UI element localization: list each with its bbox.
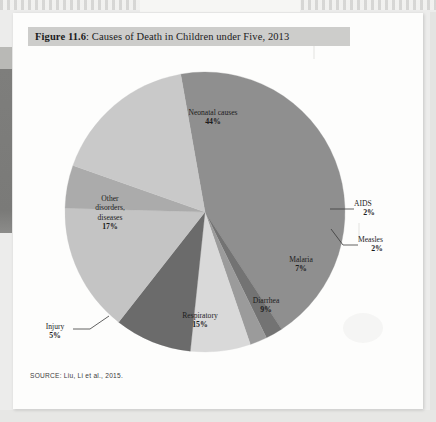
figure-title-caption: Causes of Death in Children under Five, …	[92, 31, 289, 42]
page-right-edge	[430, 12, 436, 422]
pie-label-other-line3: diseases	[76, 213, 144, 222]
pie-label-respiratory-value: 15%	[165, 320, 235, 329]
pie-label-injury: Injury 5%	[35, 322, 75, 341]
leader-line-injury	[73, 316, 109, 329]
pie-label-malaria-value: 7%	[271, 264, 331, 273]
pie-label-other-disorders: Other disorders, diseases 17%	[76, 194, 144, 232]
pie-label-diarrhea: Diarrhea 9%	[235, 296, 297, 315]
figure-page-card: Figure 11.6: Causes of Death in Children…	[13, 13, 423, 409]
pie-label-neonatal-value: 44%	[153, 117, 273, 126]
pie-label-aids: AIDS 2%	[354, 199, 408, 218]
pie-label-aids-value: 2%	[354, 208, 384, 217]
pie-label-other-value: 17%	[76, 222, 144, 231]
figure-title-bar: Figure 11.6: Causes of Death in Children…	[28, 27, 350, 46]
pie-label-measles: Measles 2%	[358, 235, 414, 254]
pie-label-diarrhea-value: 9%	[235, 305, 297, 314]
figure-page-inner: Figure 11.6: Causes of Death in Children…	[13, 13, 423, 409]
book-spine-bar	[0, 47, 12, 233]
pie-label-malaria-name: Malaria	[271, 255, 331, 264]
pie-label-neonatal-name: Neonatal causes	[153, 108, 273, 117]
book-spine-highlight	[0, 47, 12, 69]
pie-label-injury-name: Injury	[35, 322, 75, 331]
page-bottom-edge	[0, 410, 436, 422]
pie-label-aids-name: AIDS	[354, 199, 408, 208]
pie-label-diarrhea-name: Diarrhea	[235, 296, 297, 305]
pie-label-respiratory-name: Respiratory	[165, 311, 235, 320]
pie-label-injury-value: 5%	[35, 331, 75, 340]
pie-label-neonatal: Neonatal causes 44%	[153, 108, 273, 127]
pie-chart-area: Neonatal causes 44% AIDS 2% Measles 2% M…	[13, 51, 423, 361]
figure-source: SOURCE: Liu, Li et al., 2015.	[30, 372, 123, 379]
pie-label-malaria: Malaria 7%	[271, 255, 331, 274]
pie-label-respiratory: Respiratory 15%	[165, 311, 235, 330]
figure-number: Figure 11.6	[35, 31, 86, 42]
page-top-edge-highlight	[140, 0, 300, 12]
pie-label-other-line1: Other	[76, 194, 144, 203]
pie-label-measles-value: 2%	[358, 244, 396, 253]
figure-title: Figure 11.6: Causes of Death in Children…	[35, 31, 289, 42]
pie-label-other-line2: disorders,	[76, 203, 144, 212]
pie-label-measles-name: Measles	[358, 235, 414, 244]
